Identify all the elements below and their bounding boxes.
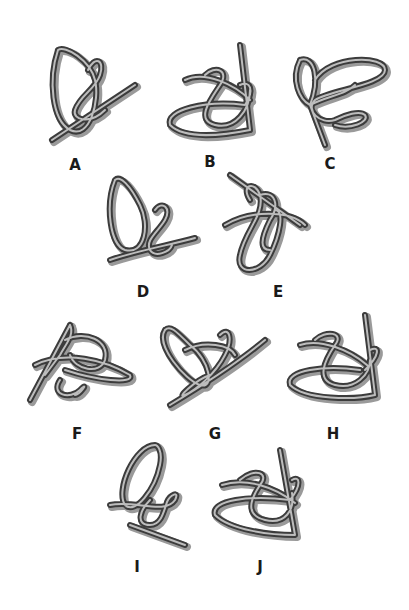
label-f: F [62,425,92,443]
label-e: E [263,283,293,301]
knot-e-icon [220,170,320,280]
knot-g-icon [155,320,275,415]
knot-i-icon [105,440,195,555]
label-a: A [60,156,90,174]
label-i: I [122,558,152,576]
label-h: H [318,425,348,443]
knot-j-icon [210,445,310,550]
knot-f-icon [25,320,140,415]
knot-d-icon [100,170,205,270]
label-g: G [200,425,230,443]
knot-c-icon [290,50,390,150]
label-b: B [195,153,225,171]
knot-h-icon [285,310,390,410]
label-j: J [245,558,275,576]
label-d: D [128,283,158,301]
knot-b-icon [165,40,275,150]
knot-a-icon [40,40,150,150]
